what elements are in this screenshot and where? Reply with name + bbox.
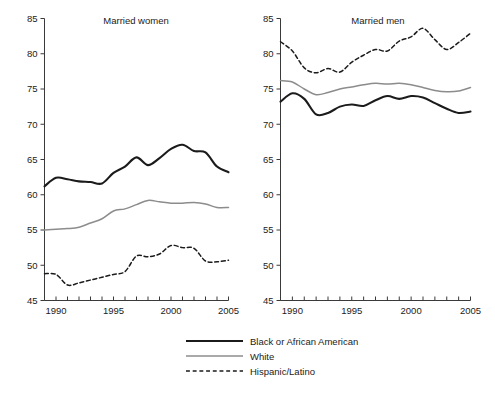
y-tick-label: 45: [27, 295, 38, 306]
y-tick-label: 60: [263, 189, 274, 200]
x-tick-label: 1995: [341, 305, 362, 316]
y-tick-label: 55: [27, 224, 38, 235]
legend-label: White: [250, 351, 274, 362]
x-tick-label: 2000: [401, 305, 422, 316]
y-tick-label: 65: [263, 154, 274, 165]
legend-label: Hispanic/Latino: [250, 366, 315, 377]
y-tick-label: 80: [263, 48, 274, 59]
y-tick-label: 55: [263, 224, 274, 235]
y-tick-label: 75: [263, 83, 274, 94]
y-tick-label: 50: [263, 260, 274, 271]
panel-title: Married men: [351, 15, 404, 26]
y-tick-label: 60: [27, 189, 38, 200]
y-tick-label: 70: [27, 119, 38, 130]
y-tick-label: 70: [263, 119, 274, 130]
y-tick-label: 45: [263, 295, 274, 306]
x-tick-label: 1990: [282, 305, 303, 316]
y-tick-label: 85: [263, 13, 274, 24]
x-tick-label: 2005: [460, 305, 481, 316]
x-tick-label: 2005: [218, 305, 239, 316]
two-panel-line-chart: Married women455055606570758085199019952…: [0, 0, 495, 393]
panel-title: Married women: [103, 15, 168, 26]
y-tick-label: 80: [27, 48, 38, 59]
x-tick-label: 2000: [160, 305, 181, 316]
y-tick-label: 85: [27, 13, 38, 24]
x-tick-label: 1990: [45, 305, 66, 316]
y-tick-label: 65: [27, 154, 38, 165]
y-tick-label: 50: [27, 260, 38, 271]
y-tick-label: 75: [27, 83, 38, 94]
figure-background: [0, 0, 495, 393]
legend-label: Black or African American: [250, 336, 358, 347]
x-tick-label: 1995: [103, 305, 124, 316]
